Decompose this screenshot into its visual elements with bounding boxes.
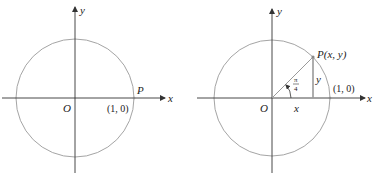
- point-p: [311, 55, 314, 58]
- vertical-leg-label: y: [315, 73, 321, 85]
- angle-denominator: 4: [294, 85, 298, 93]
- point-coord-label: (1, 0): [107, 103, 129, 115]
- y-axis-label: y: [79, 4, 85, 16]
- angle-arc: [286, 85, 291, 98]
- x-axis-label: x: [366, 92, 372, 104]
- unit-point-label: (1, 0): [333, 83, 355, 95]
- origin-label: O: [260, 102, 268, 114]
- point-p-label: P: [136, 84, 144, 96]
- horizontal-leg-label: x: [293, 102, 299, 114]
- left-figure: x y O P (1, 0): [2, 4, 173, 173]
- unit-circle-diagrams: x y O P (1, 0) x y O P(x, y) (1, 0) π 4 …: [0, 0, 375, 178]
- point-p: [133, 97, 136, 100]
- angle-numerator: π: [294, 76, 298, 84]
- origin-label: O: [63, 102, 71, 114]
- right-figure: x y O P(x, y) (1, 0) π 4 x y: [197, 5, 372, 173]
- radius-segment: [272, 57, 313, 98]
- x-axis-label: x: [167, 92, 173, 104]
- point-p-label: P(x, y): [316, 48, 347, 61]
- unit-point: [329, 97, 332, 100]
- y-axis-label: y: [276, 5, 282, 17]
